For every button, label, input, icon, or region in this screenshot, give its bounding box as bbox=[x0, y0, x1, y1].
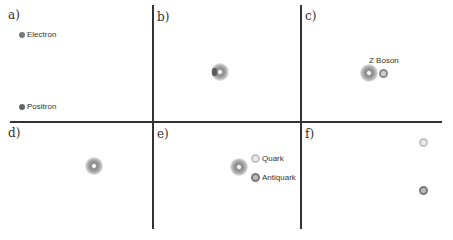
z-boson-burst-icon bbox=[360, 64, 378, 82]
antiquark-label: Antiquark bbox=[262, 174, 296, 182]
feynman-panel-diagram: a) Electron Positron b) c) Z Boson d) e)… bbox=[0, 0, 453, 240]
z-boson-particle-icon bbox=[379, 69, 388, 78]
divider-vertical-left bbox=[152, 5, 154, 229]
panel-label-c: c) bbox=[305, 10, 316, 22]
z-boson-label: Z Boson bbox=[369, 57, 399, 65]
panel-label-a: a) bbox=[8, 9, 20, 21]
decay-burst-icon bbox=[85, 157, 103, 175]
decay-burst-icon bbox=[230, 158, 248, 176]
quark-label: Quark bbox=[262, 155, 284, 163]
panel-label-e: e) bbox=[157, 128, 169, 140]
quark-particle-icon bbox=[251, 154, 260, 163]
panel-label-b: b) bbox=[157, 11, 169, 23]
antiquark-particle-icon bbox=[251, 173, 260, 182]
electron-positron-merge-icon bbox=[212, 68, 217, 76]
quark-particle-icon bbox=[419, 138, 428, 147]
antiquark-particle-icon bbox=[419, 186, 428, 195]
divider-vertical-right bbox=[300, 5, 302, 229]
panel-label-f: f) bbox=[305, 128, 314, 140]
positron-label: Positron bbox=[27, 103, 56, 111]
panel-label-d: d) bbox=[8, 127, 20, 139]
electron-label: Electron bbox=[27, 31, 56, 39]
divider-horizontal bbox=[10, 121, 442, 123]
positron-particle-icon bbox=[19, 104, 25, 110]
electron-particle-icon bbox=[19, 32, 25, 38]
